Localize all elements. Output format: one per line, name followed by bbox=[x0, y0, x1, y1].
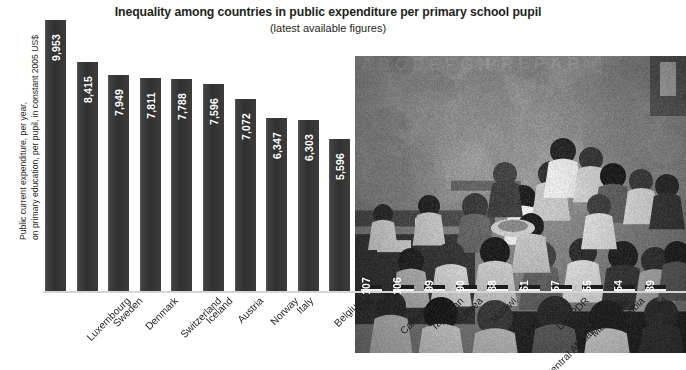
bar-austria: 7,596 bbox=[203, 84, 224, 291]
x-label-chad: Chad bbox=[644, 295, 669, 320]
x-label-malawi: Malawi bbox=[488, 295, 519, 326]
bar-value-label: 7,596 bbox=[209, 98, 220, 125]
bar-value-label: 7,788 bbox=[177, 93, 188, 120]
bar-value-label: 99 bbox=[424, 280, 435, 292]
bar-value-label: 55 bbox=[582, 280, 593, 292]
y-axis-label-line1: Public current expenditure, per year, bbox=[19, 102, 28, 240]
bar-value-label: 54 bbox=[613, 280, 624, 292]
bar-eritrea: 99 bbox=[424, 285, 445, 291]
bar-chad: 54 bbox=[614, 285, 635, 291]
bar-madagasar: 57 bbox=[551, 285, 572, 291]
bar-italy: 6,347 bbox=[266, 118, 287, 291]
bar-malawi: 90 bbox=[456, 285, 477, 291]
bar-denmark: 7,949 bbox=[108, 75, 129, 291]
bar-value-label: 88 bbox=[487, 280, 498, 292]
bar-value-label: 8,415 bbox=[82, 76, 93, 103]
bar-value-label: 6,303 bbox=[303, 133, 314, 160]
bar-cameroon: 107 bbox=[361, 285, 382, 291]
x-axis-category-labels: LuxembourgSwedenDenmarkSwitzerlandIcelan… bbox=[43, 293, 686, 370]
bar-congo: 39 bbox=[645, 285, 666, 291]
plot-area: 9,9538,4157,9497,8117,7887,5967,0726,347… bbox=[43, 8, 686, 291]
bar-zambia: 55 bbox=[582, 285, 603, 291]
bar-sweden: 8,415 bbox=[77, 62, 98, 291]
bar-central-african-republic: 88 bbox=[487, 285, 508, 291]
bar-iceland: 7,788 bbox=[171, 79, 192, 291]
x-label-lao-pdr: Lao PDR bbox=[554, 295, 591, 332]
bar-value-label: 39 bbox=[645, 280, 656, 292]
bar-norway: 7,072 bbox=[235, 99, 256, 291]
bar-value-label: 7,811 bbox=[145, 93, 156, 119]
x-label-denmark: Denmark bbox=[143, 295, 180, 332]
bar-value-label: 90 bbox=[455, 280, 466, 292]
chart-root: Inequality among countries in public exp… bbox=[0, 0, 686, 370]
x-label-congo: Congo bbox=[677, 295, 686, 324]
bar-value-label: 7,949 bbox=[114, 89, 125, 116]
bar-tajikistan: 106 bbox=[393, 285, 414, 291]
bar-lao-pdr: 61 bbox=[519, 285, 540, 291]
x-label-austria: Austria bbox=[235, 295, 266, 326]
x-label-norway: Norway bbox=[268, 295, 301, 328]
y-axis-label-line2: on primary education, per pupil, in cons… bbox=[31, 35, 40, 240]
x-label-italy: Italy bbox=[295, 295, 316, 316]
bar-value-label: 7,072 bbox=[240, 113, 251, 140]
bar-value-label: 57 bbox=[550, 280, 561, 292]
bar-value-label: 9,953 bbox=[51, 34, 62, 61]
bar-value-label: 6,347 bbox=[272, 132, 283, 159]
bar-belgium: 6,303 bbox=[298, 120, 319, 292]
bar-luxembourg: 9,953 bbox=[45, 20, 66, 291]
bar-switzerland: 7,811 bbox=[140, 78, 161, 291]
bar-value-label: 61 bbox=[519, 280, 530, 292]
bar-value-label: 5,596 bbox=[335, 153, 346, 180]
bar-uk: 5,596 bbox=[329, 139, 350, 291]
